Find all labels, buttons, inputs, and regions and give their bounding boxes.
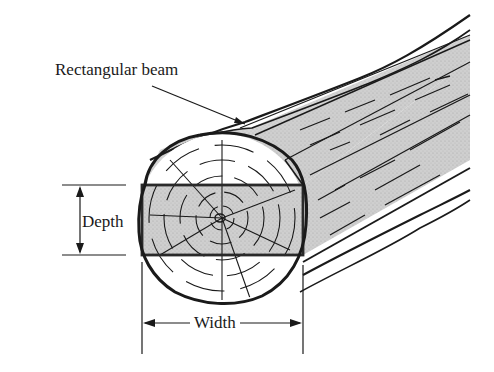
beam-leader-line <box>152 86 245 124</box>
beam-diagram: Rectangular beam Depth Width <box>0 0 494 372</box>
width-label: Width <box>190 314 240 331</box>
beam-label: Rectangular beam <box>55 61 178 78</box>
log-illustration <box>0 0 494 372</box>
depth-label: Depth <box>81 211 125 232</box>
